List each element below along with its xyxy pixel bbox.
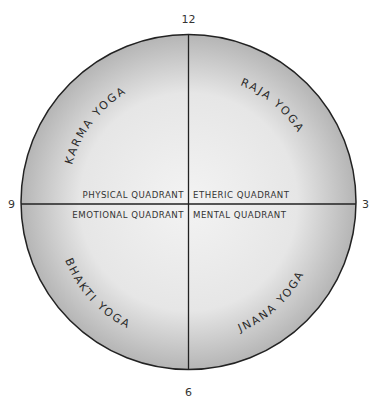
clock-label-9: 9 [8,198,15,211]
physical-quadrant-label: PHYSICAL QUADRANT [82,190,184,200]
mental-quadrant-label: MENTAL QUADRANT [193,210,287,220]
emotional-quadrant-label: EMOTIONAL QUADRANT [72,210,184,220]
etheric-quadrant-label: ETHERIC QUADRANT [193,190,290,200]
clock-label-3: 3 [362,198,369,211]
clock-label-12: 12 [182,13,196,26]
clock-label-6: 6 [185,386,192,399]
quadrant-diagram: 12 3 6 9 PHYSICAL QUADRANT ETHERIC QUADR… [0,0,377,403]
